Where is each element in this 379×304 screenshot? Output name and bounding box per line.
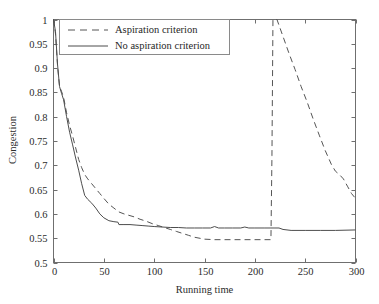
axes-frame [54,20,356,263]
chart-figure: Congestion Running time Aspiration crite… [0,0,379,304]
x-axis-title: Running time [145,285,265,296]
chart-legend: Aspiration criterion No aspiration crite… [59,19,230,55]
legend-dashed-line-icon [67,24,109,36]
x-tick-label-50: 50 [85,267,125,278]
y-tick-label-1: 1 [2,16,48,27]
y-tick-label-0.5: 0.5 [2,259,48,270]
y-tick-label-0.6: 0.6 [2,210,48,221]
x-tick-label-250: 250 [286,267,326,278]
x-tick-label-300: 300 [337,267,377,278]
x-tick-label-100: 100 [135,267,175,278]
y-tick-label-0.7: 0.7 [2,161,48,172]
legend-label-no-aspiration: No aspiration criterion [115,41,210,52]
legend-label-aspiration: Aspiration criterion [115,25,198,36]
y-tick-label-0.8: 0.8 [2,113,48,124]
x-tick-label-200: 200 [236,267,276,278]
axis-ticks [54,20,357,264]
y-tick-label-0.9: 0.9 [2,64,48,75]
legend-solid-line-icon [67,40,109,52]
legend-item-no-aspiration: No aspiration criterion [60,37,229,55]
y-tick-label-0.85: 0.85 [2,88,48,99]
x-tick-label-150: 150 [186,267,226,278]
y-tick-label-0.55: 0.55 [2,234,48,245]
y-tick-label-0.95: 0.95 [2,40,48,51]
y-tick-label-0.65: 0.65 [2,186,48,197]
y-tick-label-0.75: 0.75 [2,137,48,148]
plot-border [54,20,356,263]
